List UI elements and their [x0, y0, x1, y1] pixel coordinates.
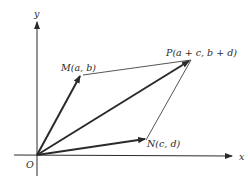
origin-label: O: [26, 159, 34, 170]
vector-parallelogram-diagram: y x O M(a, b) P(a + c, b + d) N(c, d): [0, 0, 250, 187]
point-n-label: N(c, d): [146, 138, 180, 149]
y-axis-label: y: [33, 8, 40, 19]
point-p-label: P(a + c, b + d): [165, 47, 237, 58]
vector-on: [37, 139, 145, 155]
point-m-label: M(a, b): [60, 62, 96, 73]
segment-np: [146, 60, 191, 140]
x-axis: [14, 155, 232, 156]
segment-mp: [83, 60, 191, 75]
vector-om: [37, 76, 80, 155]
x-axis-label: x: [239, 151, 245, 162]
